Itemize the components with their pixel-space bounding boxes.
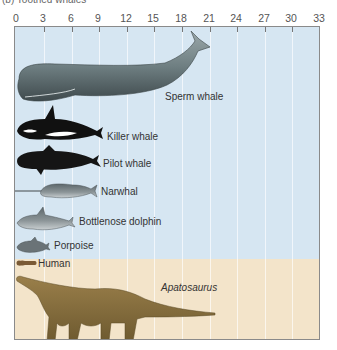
size-comparison-chart: Sperm whale Killer whale Pilot whale Nar… [14, 26, 320, 340]
pilot-whale-icon [17, 145, 101, 175]
label-narwhal: Narwhal [101, 186, 138, 197]
tick-label-27: 27 [258, 12, 270, 24]
tick-label-18: 18 [175, 12, 187, 24]
tick-label-30: 30 [285, 12, 297, 24]
label-bottlenose-dolphin: Bottlenose dolphin [79, 216, 161, 227]
tick-label-12: 12 [120, 12, 132, 24]
label-apatosaurus: Apatosaurus [161, 282, 217, 293]
tick-label-15: 15 [147, 12, 159, 24]
tick-label-0: 0 [13, 12, 19, 24]
tick-label-9: 9 [95, 12, 101, 24]
label-porpoise: Porpoise [54, 240, 93, 251]
tick-label-21: 21 [203, 12, 215, 24]
killer-whale-icon [17, 105, 103, 140]
bottlenose-dolphin-icon [17, 207, 75, 230]
label-human: Human [38, 258, 70, 269]
label-killer-whale: Killer whale [107, 131, 158, 142]
tick-label-33: 33 [313, 12, 325, 24]
narwhal-icon [15, 184, 97, 198]
figure-title: (b) Toothed whales [2, 0, 86, 5]
tick-label-24: 24 [230, 12, 242, 24]
label-pilot-whale: Pilot whale [103, 158, 151, 169]
tick-label-3: 3 [40, 12, 46, 24]
label-sperm-whale: Sperm whale [165, 91, 223, 102]
animal-illustrations [15, 27, 320, 340]
tick-label-6: 6 [68, 12, 74, 24]
porpoise-icon [17, 237, 50, 252]
human-icon [17, 260, 37, 265]
